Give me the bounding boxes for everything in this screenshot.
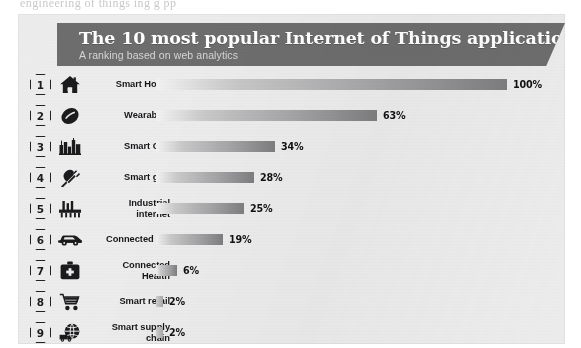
rank-badge-5: 5: [30, 198, 51, 219]
value-bar: [156, 234, 223, 245]
rank-badge-8: 8: [30, 291, 51, 312]
cityscape-icon: [58, 136, 82, 158]
rank-badge-7: 7: [30, 260, 51, 281]
rank-badge-2: 2: [30, 105, 51, 126]
rank-number: 4: [37, 172, 44, 184]
rank-number: 9: [37, 327, 44, 339]
application-label-line: Connected car: [70, 234, 170, 245]
application-label-line: Smart supply: [70, 322, 170, 333]
rank-number: 2: [37, 110, 44, 122]
ranking-row: 2Wearables63%: [18, 100, 565, 131]
value-bar: [156, 327, 163, 338]
bar-track: 100%: [156, 69, 565, 100]
rank-number: 7: [37, 265, 44, 277]
ranking-row: 5Industrialinternet25%: [18, 193, 565, 224]
infographic-header-banner: The 10 most popular Internet of Things a…: [57, 23, 565, 66]
power-plug-icon: [58, 167, 82, 189]
value-label: 28%: [260, 172, 282, 183]
application-label: Industrialinternet: [70, 198, 170, 219]
value-label: 6%: [183, 265, 199, 276]
bar-track: 25%: [156, 193, 565, 224]
value-label: 2%: [169, 327, 185, 338]
value-bar: [156, 141, 275, 152]
value-bar: [156, 265, 177, 276]
rank-badge-9: 9: [30, 322, 51, 343]
ranking-row: 8Smart retail2%: [18, 286, 565, 317]
bar-track: 63%: [156, 100, 565, 131]
application-label-line: Connected: [70, 260, 170, 271]
rank-number: 5: [37, 203, 44, 215]
ranking-list: 1Smart Home100%2Wearables63%3Smart City3…: [18, 69, 565, 344]
bar-track: 2%: [156, 317, 565, 344]
infographic-subtitle: A ranking based on web analytics: [79, 49, 565, 62]
house-icon: [58, 74, 82, 96]
value-bar: [156, 203, 244, 214]
smartwatch-icon: [58, 105, 82, 127]
infographic-title: The 10 most popular Internet of Things a…: [79, 28, 565, 48]
value-label: 25%: [250, 203, 272, 214]
application-label-line: Industrial: [70, 198, 170, 209]
rank-badge-3: 3: [30, 136, 51, 157]
value-bar: [156, 172, 254, 183]
application-label-line: Health: [70, 271, 170, 282]
ranking-row: 1Smart Home100%: [18, 69, 565, 100]
value-label: 100%: [513, 79, 542, 90]
iot-applications-infographic: The 10 most popular Internet of Things a…: [18, 14, 565, 344]
rank-badge-1: 1: [30, 74, 51, 95]
value-label: 2%: [169, 296, 185, 307]
rank-number: 8: [37, 296, 44, 308]
rank-number: 6: [37, 234, 44, 246]
value-bar: [156, 110, 377, 121]
ranking-row: 3Smart City34%: [18, 131, 565, 162]
rank-badge-6: 6: [30, 229, 51, 250]
application-label: Connected car: [70, 234, 170, 245]
value-label: 34%: [281, 141, 303, 152]
application-label-line: internet: [70, 209, 170, 220]
bar-track: 19%: [156, 224, 565, 255]
application-label-line: chain: [70, 333, 170, 344]
rank-number: 1: [37, 79, 44, 91]
rank-number: 3: [37, 141, 44, 153]
clipped-text-above-figure: engineering of things ing g pp: [0, 0, 581, 13]
ranking-row: 9Smart supplychain2%: [18, 317, 565, 344]
ranking-row: 4Smart grid28%: [18, 162, 565, 193]
ranking-row: 7ConnectedHealth6%: [18, 255, 565, 286]
bar-track: 2%: [156, 286, 565, 317]
application-label: ConnectedHealth: [70, 260, 170, 281]
value-label: 63%: [383, 110, 405, 121]
value-label: 19%: [229, 234, 251, 245]
ranking-row: 6Connected car19%: [18, 224, 565, 255]
shopping-cart-icon: [58, 291, 82, 313]
bar-track: 28%: [156, 162, 565, 193]
bar-track: 34%: [156, 131, 565, 162]
application-label: Smart supplychain: [70, 322, 170, 343]
rank-badge-4: 4: [30, 167, 51, 188]
value-bar: [156, 296, 163, 307]
bar-track: 6%: [156, 255, 565, 286]
value-bar: [156, 79, 507, 90]
